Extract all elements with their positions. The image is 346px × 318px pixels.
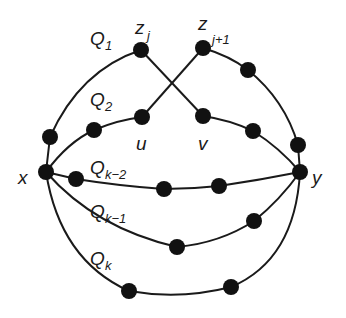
label-qk-1: Q k−1 xyxy=(90,201,126,226)
node-q2-b xyxy=(245,123,261,139)
path-diagram: x y z j z j+1 u v Q 1 Q 2 Q k−2 Q k−1 Q … xyxy=(0,0,346,318)
node-q1-b xyxy=(240,62,256,78)
node-qk-b xyxy=(223,279,239,295)
svg-text:k−2: k−2 xyxy=(105,167,127,182)
svg-text:Q: Q xyxy=(90,248,105,269)
svg-text:Q: Q xyxy=(90,89,105,110)
svg-text:Q: Q xyxy=(90,157,105,178)
svg-text:k−1: k−1 xyxy=(105,211,126,226)
label-qk-2: Q k−2 xyxy=(90,157,127,182)
node-y xyxy=(292,164,308,180)
svg-text:Q: Q xyxy=(90,28,105,49)
label-y: y xyxy=(310,167,323,188)
node-zj xyxy=(133,42,149,58)
label-q1: Q 1 xyxy=(90,28,112,53)
path-qk-2 xyxy=(46,172,300,189)
label-v: v xyxy=(198,133,209,154)
label-q2: Q 2 xyxy=(90,89,113,114)
node-qk-a xyxy=(121,283,137,299)
node-q1-c xyxy=(290,137,306,153)
node-q1-a xyxy=(42,129,58,145)
svg-text:j+1: j+1 xyxy=(210,32,230,47)
node-q2-a xyxy=(86,122,102,138)
node-zj1 xyxy=(195,40,211,56)
path-qk-1 xyxy=(46,172,300,247)
path-q2 xyxy=(46,116,300,172)
node-qk-2-b xyxy=(156,181,172,197)
label-u: u xyxy=(136,133,147,154)
node-qk-1-b xyxy=(246,213,262,229)
svg-text:1: 1 xyxy=(105,38,112,53)
svg-text:k: k xyxy=(105,258,113,273)
svg-text:j: j xyxy=(145,28,151,43)
node-qk-1-a xyxy=(169,239,185,255)
node-x xyxy=(38,164,54,180)
node-u xyxy=(134,109,150,125)
svg-text:2: 2 xyxy=(104,99,113,114)
node-qk-2-c xyxy=(211,178,227,194)
svg-text:z: z xyxy=(197,13,208,34)
path-q1 xyxy=(46,48,300,172)
node-qk-2-a xyxy=(68,171,84,187)
svg-text:z: z xyxy=(134,17,145,38)
label-x: x xyxy=(17,167,29,188)
path-qk xyxy=(46,172,300,295)
label-zj: z j xyxy=(134,17,151,43)
node-v xyxy=(195,108,211,124)
svg-text:Q: Q xyxy=(90,201,105,222)
